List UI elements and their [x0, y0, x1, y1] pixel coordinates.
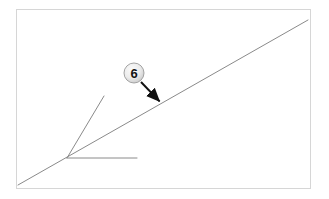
callout-badge-label: 6 [130, 66, 137, 81]
callout-badge-6[interactable]: 6 [124, 63, 144, 83]
figure-canvas: 6 [0, 0, 329, 199]
line-drawing-svg: 6 [0, 0, 329, 199]
figure-background [0, 0, 329, 199]
